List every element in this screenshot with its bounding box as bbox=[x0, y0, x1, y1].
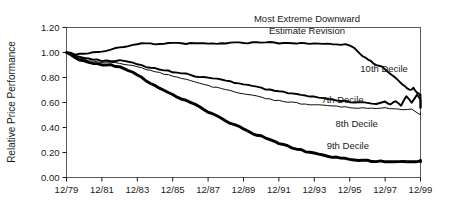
x-tick-label: 12/99 bbox=[409, 184, 433, 195]
x-tick-label: 12/97 bbox=[373, 184, 397, 195]
y-tick-label: 0.80 bbox=[41, 72, 60, 83]
x-tick-label: 12/85 bbox=[161, 184, 185, 195]
annotation-line-2: Estimate Revision bbox=[269, 25, 345, 36]
x-tick-label: 12/91 bbox=[267, 184, 291, 195]
x-tick-label: 12/89 bbox=[232, 184, 256, 195]
x-tick-label: 12/87 bbox=[196, 184, 220, 195]
y-tick-label: 0.00 bbox=[41, 172, 60, 183]
relative-price-performance-chart: 0.000.200.400.600.801.001.20 12/7912/811… bbox=[0, 0, 450, 211]
x-tick-label: 12/83 bbox=[125, 184, 149, 195]
y-axis-title: Relative Price Performance bbox=[6, 41, 17, 163]
series-label-7th-decile: 7th Decile bbox=[321, 94, 363, 105]
chart-container: 0.000.200.400.600.801.001.20 12/7912/811… bbox=[0, 0, 450, 211]
y-tick-label: 1.00 bbox=[41, 47, 60, 58]
series-label-9th-decile: 9th Decile bbox=[327, 140, 369, 151]
x-tick-label: 12/95 bbox=[338, 184, 362, 195]
series-label-10th-decile: 10th Decile bbox=[360, 63, 408, 74]
x-tick-label: 12/81 bbox=[90, 184, 114, 195]
chart-background bbox=[0, 0, 450, 211]
y-tick-label: 0.60 bbox=[41, 97, 60, 108]
annotation-line-1: Most Extreme Downward bbox=[254, 13, 360, 24]
y-tick-label: 1.20 bbox=[41, 22, 60, 33]
y-tick-label: 0.40 bbox=[41, 122, 60, 133]
x-tick-label: 12/79 bbox=[55, 184, 79, 195]
y-tick-label: 0.20 bbox=[41, 147, 60, 158]
series-label-8th-decile: 8th Decile bbox=[336, 118, 378, 129]
x-tick-label: 12/93 bbox=[302, 184, 326, 195]
x-axis-tick-labels: 12/7912/8112/8312/8512/8712/8912/9112/93… bbox=[55, 184, 433, 195]
